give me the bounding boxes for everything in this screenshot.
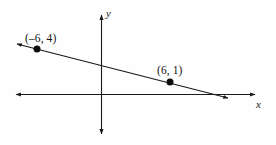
point-label-second: (6, 1) (157, 65, 183, 77)
data-point-marker (34, 46, 41, 53)
coordinate-plane-svg (0, 0, 276, 145)
data-point-marker (167, 79, 174, 86)
y-axis-label: y (106, 8, 111, 19)
graph-figure: y x (–6, 4) (6, 1) (0, 0, 276, 145)
x-axis-label: x (256, 99, 261, 110)
point-label-first: (–6, 4) (25, 33, 56, 45)
plotted-line (17, 44, 228, 98)
